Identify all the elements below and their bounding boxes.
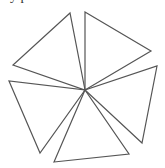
diagram-canvas: y p xyxy=(0,0,165,168)
pinwheel-diagram xyxy=(0,0,165,168)
triangle-bottom xyxy=(54,90,129,162)
triangle-top-right xyxy=(85,12,151,90)
triangle-top-left xyxy=(13,13,85,90)
triangle-right xyxy=(85,66,157,143)
